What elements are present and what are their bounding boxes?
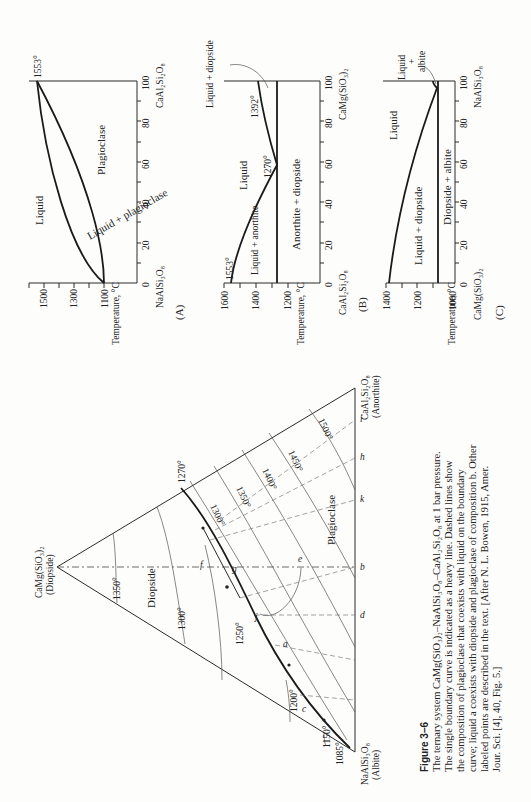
crystallization-path (203, 528, 240, 598)
chart-a: Liquid Liquid + plagioclase Plagioclase … (29, 55, 186, 345)
corner-anorthite-name: (Anorthite) (371, 375, 382, 418)
isotherm-1250 (205, 545, 222, 680)
chart-b-liquid-diopside-label: Liquid + diopside (205, 40, 215, 108)
chart-b-xtick: 60 (324, 159, 334, 169)
isotherm-label: 1200° (289, 689, 299, 712)
chart-a-solidus (37, 81, 104, 283)
isotherm-label: 1400° (260, 467, 279, 492)
isotherm-label: 1450° (286, 449, 305, 474)
chart-b-liquid-label: Liquid (237, 160, 249, 190)
chart-c-xlabel-right: NaAlSi₃O₈ (473, 66, 483, 108)
isotherm-plag-1450 (269, 433, 355, 578)
chart-b-leader-line (230, 64, 268, 88)
isotherm-label: 1350° (112, 577, 122, 600)
ternary-outline (57, 388, 355, 752)
chart-a-plagioclase-label: Plagioclase (95, 125, 107, 175)
isotherm-plag-1300 (190, 481, 347, 740)
figure-number: Figure 3–6 (419, 722, 430, 772)
figure-caption: Figure 3–6 The ternary system CaMg(SiO₃)… (419, 444, 502, 772)
isotherm-label: 1500° (316, 417, 335, 442)
chart-a-xtick: 60 (141, 159, 151, 169)
chart-c-xtick: 100 (459, 76, 469, 91)
chart-b-diopside-liquidus (258, 81, 277, 165)
chart-c-xtick: 80 (459, 118, 469, 128)
chart-b-1270-label: 1270° (263, 155, 273, 178)
point-label-g: g (232, 564, 237, 574)
tie-line-b (240, 567, 355, 598)
chart-b-ytick: 1400 (251, 291, 261, 310)
chart-b-anorthite-diopside-label: Anorthite + diopside (290, 159, 302, 250)
book-page: Liquid Liquid + plagioclase Plagioclase … (0, 0, 531, 802)
chart-c-liquid-albite-label-2: + (407, 59, 417, 64)
boundary-label-1270: 1270° (177, 460, 187, 483)
caption-line: The ternary system CaMg(SiO₃)₂–NaAlSi₃O₈… (431, 451, 443, 772)
chart-b-ytick: 1600 (220, 291, 230, 310)
chart-b-1553-label: 1553° (225, 257, 235, 280)
chart-a-t-ticks (29, 283, 104, 288)
chart-a-xlabel-right: CaAl₂Si₂O₈ (155, 63, 165, 108)
chart-c-albite-liquidus (433, 81, 437, 88)
chart-c-liquid-albite-label-1: Liquid (397, 54, 407, 80)
chart-a-liquid-label: Liquid (33, 195, 45, 225)
chart-b-1392-label: 1392° (250, 95, 260, 118)
path-arrow-dot (225, 585, 229, 589)
chart-b-xtick: 100 (324, 76, 334, 91)
point-label-b: b (360, 562, 365, 572)
caption-line: curve; liquid a coexists with diopside a… (467, 444, 478, 772)
chart-a-liquidus (37, 81, 104, 283)
caption-line: Jour. Sci. [4], 40, Fig. 5.] (491, 667, 502, 772)
chart-a-ylabel: Temperature, °C (111, 282, 121, 345)
point-label-d: d (360, 610, 365, 620)
caption-line: labeled points are described in the text… (479, 466, 490, 772)
ternary-diagram: CaMg(SiO₃)₂ (Diopside) NaAlSi₃O₈ (Albite… (34, 375, 382, 785)
chart-c-liquid-diopside-label: Liquid + diopside (412, 187, 424, 265)
point-label-c: c (302, 704, 307, 714)
point-label-k: k (360, 494, 365, 504)
chart-a-xtick: 20 (141, 240, 151, 250)
chart-a-ytick: 1100 (100, 289, 110, 308)
chart-c-ytick: 1400 (382, 291, 392, 310)
chart-c-t-ticks (386, 283, 433, 288)
caption-line: The single boundary curve is indicated a… (443, 460, 454, 772)
chart-b-xtick: 80 (324, 118, 334, 128)
chart-b-liquid-anorthite-label: Liquid + anorthite (250, 206, 260, 275)
chart-a-panel-label: (A) (173, 304, 186, 320)
corner-albite-name: (Albite) (371, 750, 382, 780)
chart-b-ylabel: Temperature, °C (296, 282, 306, 345)
chart-b-xlabel-right: CaMg(SiO₃)₂ (338, 69, 349, 121)
isotherm-label: 1150° (322, 725, 332, 748)
chart-a-ytick: 1300 (69, 289, 79, 308)
chart-b-t-ticks (224, 283, 288, 288)
field-label-plagioclase: Plagioclase (325, 495, 337, 545)
chart-c: Liquid Liquid + diopside Diopside + albi… (382, 51, 506, 345)
chart-b-xtick: 40 (324, 199, 334, 209)
chart-a-ytick: 1500 (39, 289, 49, 308)
point-on-boundary (322, 718, 325, 721)
chart-b: Liquid Liquid + anorthite Liquid + diops… (205, 40, 369, 345)
chart-c-ylabel: Temperature, °C (447, 282, 457, 345)
field-label-diopside: Diopside (145, 568, 157, 608)
caption-line: the composition of plagioclase that coex… (455, 469, 466, 772)
chart-c-ytick: 1200 (413, 291, 423, 310)
chart-b-xtick: 20 (324, 240, 334, 250)
point-on-boundary (201, 526, 204, 529)
boundary-label-1085: 1085° (335, 742, 345, 765)
chart-a-liquid-plag-label: Liquid + plagioclase (85, 186, 169, 242)
chart-a-1553-label: 1553° (33, 55, 43, 78)
apex-diopside-name: (Diopside) (45, 554, 56, 595)
chart-a-xtick: 0 (141, 282, 151, 287)
arc-j-e (260, 568, 301, 616)
chart-c-xtick: 0 (459, 282, 469, 287)
isotherm-label: 1250° (235, 622, 245, 645)
chart-c-liquid-label: Liquid (387, 110, 399, 140)
chart-a-xtick: 80 (141, 118, 151, 128)
isotherm-label: 1350° (234, 485, 253, 510)
chart-a-xlabel-left: NaAlSi₃O₈ (155, 266, 165, 308)
isotherm-label: 1300° (177, 607, 187, 630)
chart-b-xlabel-left: CaAl₂Si₂O₈ (338, 270, 348, 315)
chart-c-xtick: 40 (459, 199, 469, 209)
chart-b-panel-label: (B) (356, 297, 369, 312)
chart-c-xtick: 20 (459, 240, 469, 250)
chart-a-xtick: 100 (141, 76, 151, 91)
point-label-f: f (200, 560, 204, 570)
